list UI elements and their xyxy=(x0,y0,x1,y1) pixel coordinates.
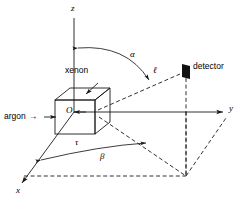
scattering-geometry-figure: z y x α β xenon τ argon→ O ℓ detector xyxy=(0,0,243,205)
x-axis-line xyxy=(22,112,74,183)
beta-angle-arc xyxy=(41,143,146,160)
detector-marker xyxy=(182,64,190,79)
cube-front-face xyxy=(55,100,95,134)
origin-label: O xyxy=(66,106,73,115)
argon-arrow-glyph: → xyxy=(29,111,38,121)
cube-top-face xyxy=(55,88,110,100)
detector-label: detector xyxy=(193,62,224,71)
tau-dimension-label: τ xyxy=(75,138,78,147)
x-axis-label: x xyxy=(16,186,20,195)
argon-label: argon→ xyxy=(4,112,37,121)
argon-text: argon xyxy=(4,111,26,121)
alpha-angle-arc xyxy=(78,48,149,80)
ground-to-yaxis-dashed xyxy=(186,118,226,176)
xenon-label: xenon xyxy=(65,66,88,75)
alpha-angle-label: α xyxy=(130,50,135,59)
z-axis-label: z xyxy=(71,4,75,13)
figure-linework xyxy=(0,0,243,205)
xenon-leader-arrow xyxy=(86,83,98,94)
y-axis-label: y xyxy=(229,104,233,113)
detector-distance-label: ℓ xyxy=(153,66,157,75)
cube-right-face xyxy=(95,88,110,134)
beta-angle-label: β xyxy=(100,152,104,161)
